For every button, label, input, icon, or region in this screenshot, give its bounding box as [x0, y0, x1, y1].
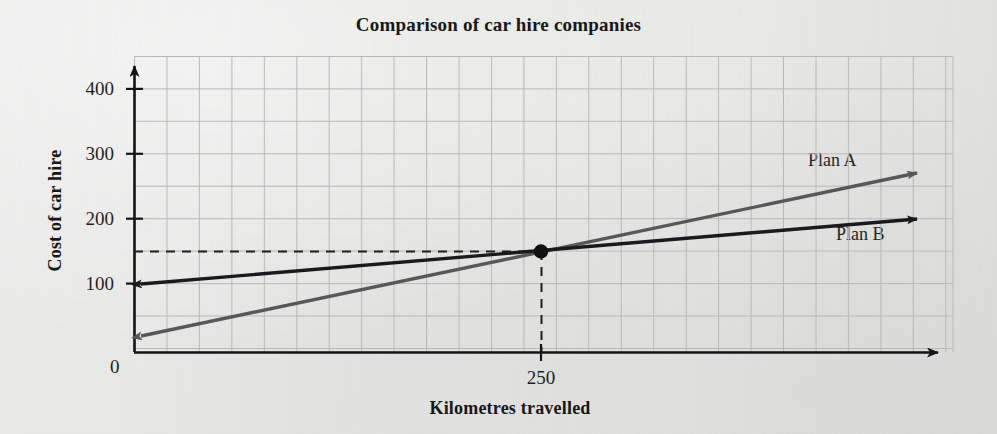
intersection-point-dot [534, 244, 548, 258]
series-line-plan-a [141, 173, 917, 336]
chart-page: Comparison of car hire companies Cost of… [0, 0, 997, 434]
grid-horizontal-lines [134, 57, 953, 349]
grid-vertical-lines [135, 56, 954, 352]
chart-plot-area [0, 0, 997, 434]
